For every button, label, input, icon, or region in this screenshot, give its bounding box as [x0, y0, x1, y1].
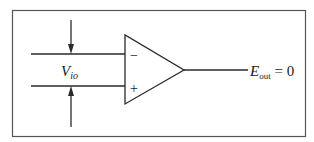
op-amp-diagram: − + Vio Eout = 0: [0, 0, 314, 142]
noninverting-sign: +: [130, 81, 138, 96]
output-voltage-suffix: = 0: [271, 63, 294, 79]
output-voltage-main: E: [249, 63, 259, 79]
offset-voltage-label: Vio: [61, 63, 78, 81]
arrow-up-icon: [68, 86, 74, 127]
output-voltage-subscript: out: [259, 71, 271, 81]
inverting-sign: −: [130, 48, 138, 63]
offset-voltage-subscript: io: [70, 70, 78, 81]
arrow-down-icon: [68, 20, 74, 54]
output-voltage-label: Eout = 0: [249, 63, 294, 81]
